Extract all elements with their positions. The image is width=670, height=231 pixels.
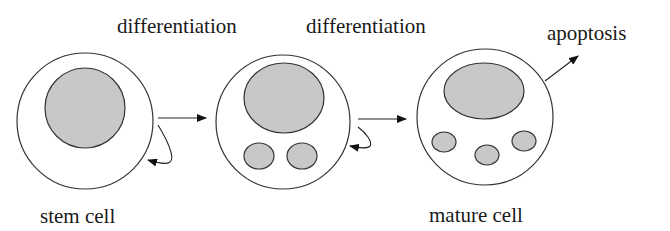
- mature-cell-nucleus: [444, 63, 524, 119]
- intermediate-cell: [216, 55, 350, 189]
- label-differentiation-2: differentiation: [306, 14, 426, 38]
- granule: [244, 143, 274, 169]
- apoptosis-arrow: [545, 56, 578, 81]
- mature-cell: [417, 49, 553, 185]
- granule: [432, 132, 456, 152]
- intermediate-cell-nucleus: [244, 63, 324, 133]
- granule: [287, 143, 317, 169]
- cell-differentiation-diagram: differentiation differentiation apoptosi…: [0, 0, 670, 231]
- self-renewal-loop-2: [350, 127, 371, 148]
- granule: [475, 145, 499, 165]
- granule: [512, 131, 536, 151]
- label-mature-cell: mature cell: [429, 203, 523, 227]
- label-apoptosis: apoptosis: [547, 21, 626, 45]
- label-stem-cell: stem cell: [40, 204, 115, 228]
- label-differentiation-1: differentiation: [117, 14, 237, 38]
- stem-cell-nucleus: [45, 68, 125, 148]
- stem-cell: [17, 53, 153, 189]
